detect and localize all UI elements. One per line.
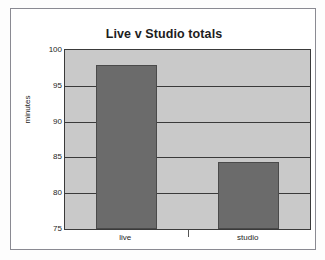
y-tick-label: 95 [32, 80, 62, 89]
y-tick-label: 85 [32, 152, 62, 161]
y-tick-label: 75 [32, 224, 62, 233]
x-tick-label-studio: studio [237, 233, 258, 242]
bar-live [96, 65, 157, 229]
plot-area [64, 49, 311, 230]
x-axis-tick-labels: livestudio [64, 233, 311, 247]
chart-title: Live v Studio totals [11, 27, 317, 41]
y-tick-label: 80 [32, 188, 62, 197]
x-tick-label-live: live [119, 233, 131, 242]
axis-tick-mark [188, 230, 189, 237]
y-axis-tick-labels: 1009590858075 [28, 49, 62, 230]
chart-page: Live v Studio totals minutes 10095908580… [0, 0, 325, 260]
chart-frame: Live v Studio totals minutes 10095908580… [10, 8, 316, 250]
y-tick-label: 100 [32, 45, 62, 54]
bar-studio [218, 162, 279, 229]
y-tick-label: 90 [32, 116, 62, 125]
